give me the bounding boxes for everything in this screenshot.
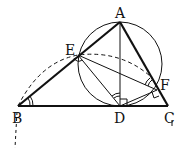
geometry-diagram: A B C D E F — [0, 0, 184, 153]
angle-mark-B-inner — [28, 98, 30, 106]
angle-mark-D-inner — [114, 96, 120, 98]
segment-ED — [78, 55, 120, 106]
segment-AC — [120, 22, 168, 106]
label-F: F — [160, 77, 170, 93]
angle-mark-F-inner — [148, 80, 152, 86]
angle-mark-F-outer — [145, 78, 150, 85]
label-C: C — [164, 110, 175, 126]
label-B: B — [12, 110, 22, 126]
right-angle-mark-F — [152, 92, 159, 98]
segment-DF — [120, 90, 157, 106]
label-A: A — [114, 5, 126, 21]
label-E: E — [65, 42, 75, 58]
segment-AB — [18, 22, 120, 106]
label-D: D — [114, 110, 125, 126]
